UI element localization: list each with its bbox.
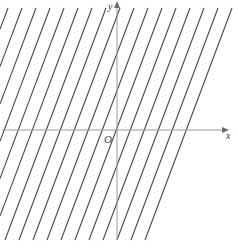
parallel-line: [19, 8, 106, 240]
origin-label: O: [104, 134, 112, 145]
parallel-line: [0, 8, 22, 67]
plot-canvas: [0, 0, 238, 251]
y-axis-label: y: [108, 2, 112, 12]
parallel-line: [0, 8, 8, 29]
parallel-line: [0, 8, 64, 179]
x-axis-label: x: [226, 131, 230, 141]
coordinate-plane-figure: y x O: [0, 0, 238, 251]
parallel-line: [89, 8, 176, 240]
parallel-line: [131, 8, 218, 240]
y-axis-arrowhead-icon: [114, 1, 120, 8]
parallel-line: [75, 8, 162, 240]
parallel-line: [47, 8, 134, 240]
parallel-lines-group: [0, 8, 232, 240]
parallel-line: [103, 8, 190, 240]
parallel-line: [5, 8, 92, 240]
parallel-line: [117, 8, 204, 240]
parallel-line: [145, 8, 232, 240]
parallel-line: [0, 8, 78, 216]
parallel-line: [61, 8, 148, 240]
parallel-line: [0, 8, 50, 141]
parallel-line: [0, 8, 36, 104]
parallel-line: [33, 8, 120, 240]
